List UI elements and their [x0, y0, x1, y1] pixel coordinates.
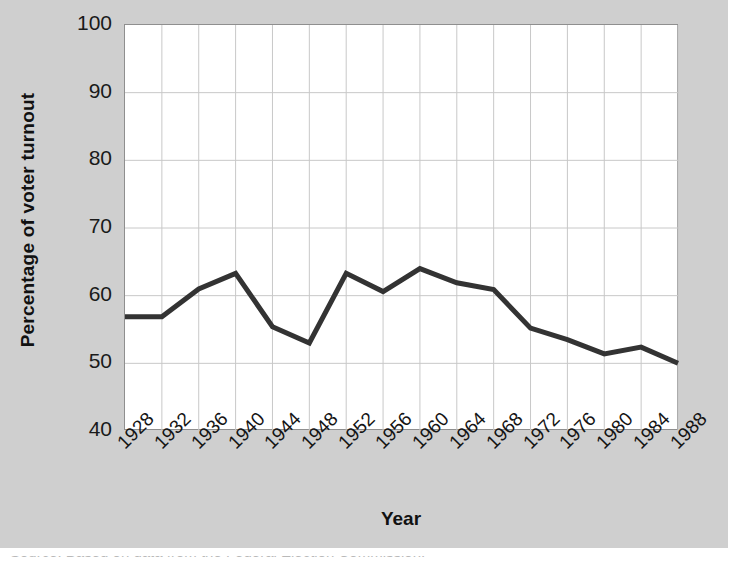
- x-tick-label: 1972: [519, 408, 564, 453]
- x-tick-label: 1964: [445, 408, 490, 453]
- x-tick-label: 1940: [224, 408, 269, 453]
- x-tick-label: 1948: [297, 408, 342, 453]
- x-axis-title: Year: [124, 508, 678, 530]
- y-axis-title: Percentage of voter turnout: [8, 0, 48, 440]
- x-tick-label: 1952: [334, 408, 379, 453]
- x-tick-label: 1984: [629, 408, 674, 453]
- x-tick-label: 1936: [187, 408, 232, 453]
- x-tick-label: 1960: [408, 408, 453, 453]
- x-axis-tick-labels: 1928193219361940194419481952195619601964…: [0, 0, 750, 565]
- x-tick-label: 1968: [482, 408, 527, 453]
- x-tick-label: 1980: [592, 408, 637, 453]
- y-axis-title-text: Percentage of voter turnout: [17, 93, 39, 348]
- clipped-caption-text: Source: Based on data from the Federal E…: [10, 556, 425, 560]
- voter-turnout-chart-figure: 405060708090100 192819321936194019441948…: [0, 0, 750, 565]
- x-tick-label: 1976: [555, 408, 600, 453]
- x-tick-label: 1928: [113, 408, 158, 453]
- x-tick-label: 1932: [150, 408, 195, 453]
- clipped-caption-strip: Source: Based on data from the Federal E…: [0, 556, 750, 565]
- x-tick-label: 1988: [666, 408, 711, 453]
- x-tick-label: 1944: [260, 408, 305, 453]
- x-tick-label: 1956: [371, 408, 416, 453]
